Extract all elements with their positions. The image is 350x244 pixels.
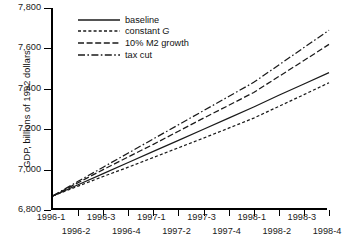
x-axis-tick-label: 1998-1 (225, 212, 279, 222)
legend-line-sample (78, 15, 120, 25)
x-axis-tick-label: 1998-2 (250, 226, 304, 236)
legend-item: 10% M2 growth (78, 37, 189, 49)
legend-line-sample (78, 26, 120, 36)
legend-label: baseline (125, 15, 159, 25)
y-axis-tick-label: 7,400 (1, 83, 41, 93)
x-axis-tick-label: 1996-4 (99, 226, 153, 236)
legend-label: 10% M2 growth (125, 38, 189, 48)
y-axis-tick (44, 129, 51, 130)
y-axis-tick (44, 89, 51, 90)
x-axis-tick-label: 1997-2 (149, 226, 203, 236)
legend-line-sample (78, 50, 120, 60)
x-axis-tick-label: 1997-1 (124, 212, 178, 222)
legend-label: constant G (125, 26, 169, 36)
legend-item: constant G (78, 26, 189, 38)
gdp-forecast-chart: GDP, billions of 1992 dollars 6,8007,000… (0, 0, 350, 244)
chart-legend: baselineconstant G10% M2 growthtax cut (78, 14, 189, 60)
x-axis-tick-label: 1998-3 (275, 212, 329, 222)
x-axis-tick-label: 1998-4 (300, 226, 350, 236)
x-axis-tick-label: 1996-3 (74, 212, 128, 222)
legend-item: tax cut (78, 49, 189, 61)
y-axis-tick (44, 8, 51, 9)
x-axis-tick (329, 210, 330, 216)
series-line-10-m2-growth (53, 44, 329, 196)
y-axis-tick-label: 7,200 (1, 123, 41, 133)
x-axis-tick-label: 1997-3 (175, 212, 229, 222)
y-axis-tick (44, 210, 51, 211)
legend-label-symbol: G (162, 26, 169, 36)
y-axis-tick (44, 170, 51, 171)
x-axis-tick-label: 1997-4 (200, 226, 254, 236)
y-axis-tick-label: 7,000 (1, 164, 41, 174)
x-axis-tick-label: 1996-1 (24, 212, 78, 222)
x-axis-tick-label: 1996-2 (49, 226, 103, 236)
y-axis-tick-label: 7,800 (1, 2, 41, 12)
legend-item: baseline (78, 14, 189, 26)
series-line-baseline (53, 73, 329, 196)
series-line-constant-g (53, 83, 329, 196)
y-axis-tick (44, 48, 51, 49)
legend-line-sample (78, 38, 120, 48)
y-axis-tick-label: 7,600 (1, 42, 41, 52)
legend-label: tax cut (125, 50, 152, 60)
